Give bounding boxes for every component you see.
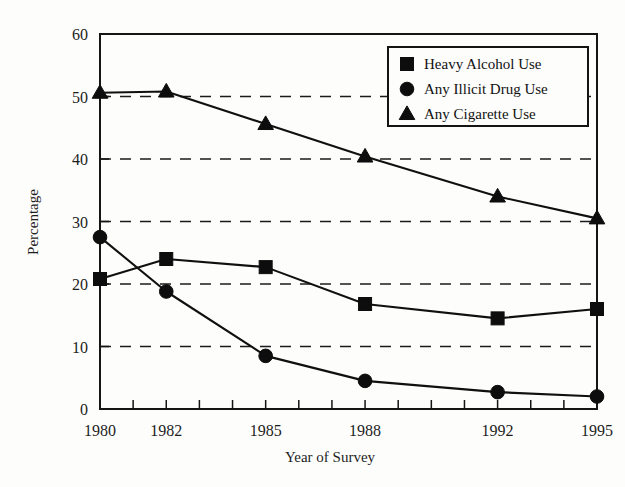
x-tick-labels: 198019821985198819921995: [84, 422, 613, 439]
y-axis-title: Percentage: [25, 189, 41, 255]
legend-label-2: Any Cigarette Use: [424, 106, 536, 122]
data-point-square-1992: [491, 312, 504, 325]
x-tick-label-1980: 1980: [84, 422, 116, 439]
data-point-triangle-1982: [158, 83, 174, 97]
legend-label-0: Heavy Alcohol Use: [424, 56, 542, 72]
data-point-circle-1982: [159, 285, 173, 299]
y-tick-label-50: 50: [72, 89, 88, 106]
x-tick-label-1982: 1982: [150, 422, 182, 439]
data-point-triangle-1980: [92, 85, 108, 99]
legend: Heavy Alcohol UseAny Illicit Drug UseAny…: [388, 47, 588, 126]
y-tick-label-40: 40: [72, 151, 88, 168]
series-group: [92, 83, 605, 403]
legend-label-1: Any Illicit Drug Use: [424, 81, 548, 97]
data-point-square-1982: [160, 253, 173, 266]
legend-square-marker-icon: [401, 58, 414, 71]
x-tick-label-1995: 1995: [581, 422, 613, 439]
x-tick-label-1988: 1988: [349, 422, 381, 439]
data-point-circle-1992: [491, 385, 505, 399]
figure-container: 198019821985198819921995 0102030405060 Y…: [0, 0, 625, 487]
x-tick-label-1985: 1985: [250, 422, 282, 439]
data-point-circle-1980: [93, 230, 107, 244]
data-point-square-1980: [94, 273, 107, 286]
y-tick-label-30: 30: [72, 214, 88, 231]
y-tick-label-20: 20: [72, 276, 88, 293]
y-tick-label-0: 0: [80, 401, 88, 418]
data-point-circle-1995: [590, 390, 604, 404]
legend-circle-marker-icon: [400, 82, 414, 96]
y-tick-label-10: 10: [72, 339, 88, 356]
data-point-square-1988: [359, 298, 372, 311]
x-tick-label-1992: 1992: [482, 422, 514, 439]
gridlines-group: [100, 97, 597, 347]
data-point-square-1995: [591, 303, 604, 316]
x-axis-title: Year of Survey: [285, 449, 376, 465]
series-line-0: [100, 259, 597, 318]
y-tick-label-60: 60: [72, 26, 88, 43]
data-point-square-1985: [259, 261, 272, 274]
data-point-circle-1985: [259, 349, 273, 363]
data-point-circle-1988: [358, 374, 372, 388]
y-tick-labels: 0102030405060: [72, 26, 88, 418]
line-chart: 198019821985198819921995 0102030405060 Y…: [0, 0, 625, 487]
